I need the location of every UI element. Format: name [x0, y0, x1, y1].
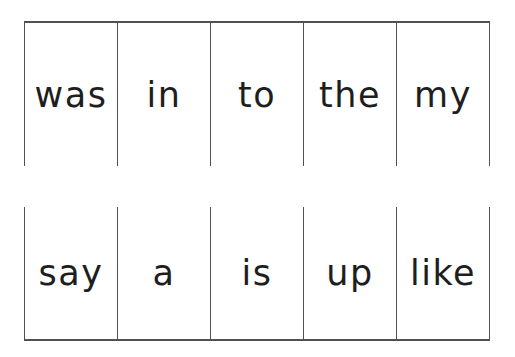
flashcard-cell: was: [24, 23, 117, 166]
flashcard-cell: up: [303, 207, 396, 339]
flashcard-sheet: was in to the my say a is up like: [0, 0, 515, 357]
flashcard-word: like: [410, 253, 476, 293]
flashcard-cell: like: [396, 207, 490, 339]
flashcard-word: my: [414, 75, 472, 115]
flashcard-row-2: say a is up like: [24, 207, 490, 341]
flashcard-word: was: [35, 75, 108, 115]
flashcard-cell: say: [24, 207, 117, 339]
flashcard-word: a: [153, 253, 176, 293]
flashcard-word: up: [326, 253, 373, 293]
flashcard-word: is: [242, 253, 273, 293]
flashcard-cell: in: [117, 23, 210, 166]
flashcard-cell: is: [210, 207, 303, 339]
flashcard-cell: a: [117, 207, 210, 339]
flashcard-cell: my: [396, 23, 490, 166]
flashcard-word: to: [238, 75, 276, 115]
flashcard-row-1: was in to the my: [24, 21, 490, 166]
flashcard-cell: the: [303, 23, 396, 166]
flashcard-word: in: [147, 75, 182, 115]
flashcard-cell: to: [210, 23, 303, 166]
flashcard-word: say: [39, 253, 104, 293]
flashcard-word: the: [319, 75, 381, 115]
